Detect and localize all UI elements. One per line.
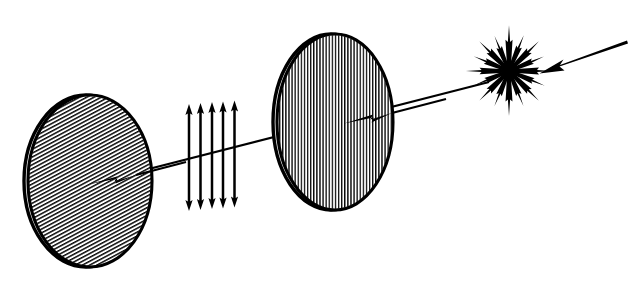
polarization-diagram	[0, 0, 629, 282]
figure-canvas	[0, 0, 629, 282]
